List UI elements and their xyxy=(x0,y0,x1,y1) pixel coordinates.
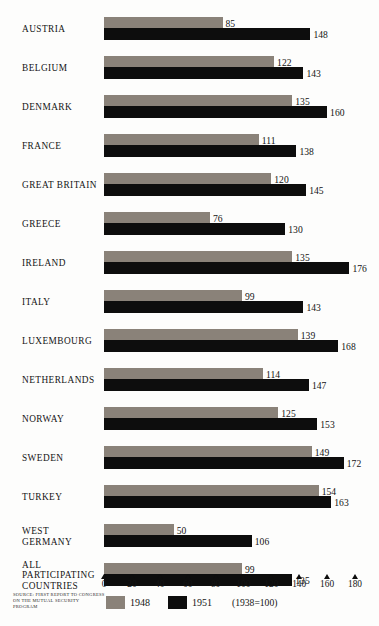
x-axis-tick-label: 140 xyxy=(284,579,314,590)
bar-line: 163 xyxy=(104,496,379,508)
row-label-line: SWEDEN xyxy=(22,453,102,464)
chart-rows: AUSTRIA85148BELGIUM122143DENMARK135160FR… xyxy=(0,10,379,595)
bar-group: 149172 xyxy=(104,446,379,471)
bar-1951 xyxy=(104,106,327,118)
bar-value-label: 149 xyxy=(312,446,329,457)
chart-row: GREECE76130 xyxy=(0,205,379,244)
chart-row: FRANCE111138 xyxy=(0,127,379,166)
row-label-line: GREAT BRITAIN xyxy=(22,180,102,191)
bar-value-label: 163 xyxy=(331,497,348,508)
row-label-line: WEST xyxy=(22,526,102,537)
bar-line: 99 xyxy=(104,290,379,301)
bar-value-label: 147 xyxy=(309,380,326,391)
bar-1951 xyxy=(104,418,317,430)
x-axis-tick: 100 xyxy=(228,574,258,590)
x-axis-tick-label: 160 xyxy=(312,579,342,590)
bar-value-label: 122 xyxy=(274,56,291,67)
bar-value-label: 114 xyxy=(263,368,280,379)
x-axis-tick-label: 100 xyxy=(228,579,258,590)
bar-line: 130 xyxy=(104,223,379,235)
x-axis-tick-label: 60 xyxy=(173,579,203,590)
chart-row: TURKEY154163 xyxy=(0,478,379,517)
x-axis-tick-label: 120 xyxy=(256,579,286,590)
legend-label-1948: 1948 xyxy=(130,597,150,608)
bar-group: 50106 xyxy=(104,524,379,549)
row-label-norway: NORWAY xyxy=(22,400,102,439)
bar-group: 99143 xyxy=(104,290,379,315)
bar-value-label: 99 xyxy=(242,563,255,574)
bar-line: 106 xyxy=(104,535,379,547)
x-axis-tick-label: 180 xyxy=(340,579,370,590)
x-axis-tick-label: 20 xyxy=(117,579,147,590)
bar-line: 145 xyxy=(104,184,379,196)
x-axis-tick: 180 xyxy=(340,574,370,590)
bar-group: 120145 xyxy=(104,173,379,198)
row-label-greece: GREECE xyxy=(22,205,102,244)
bar-1948 xyxy=(104,134,259,145)
x-axis-tick: 120 xyxy=(256,574,286,590)
bar-group: 76130 xyxy=(104,212,379,237)
row-label-great-britain: GREAT BRITAIN xyxy=(22,166,102,205)
chart-row: ITALY99143 xyxy=(0,283,379,322)
bar-1948 xyxy=(104,329,298,340)
legend-swatch-1951 xyxy=(168,596,187,609)
x-axis-tick: 80 xyxy=(201,574,231,590)
row-label-austria: AUSTRIA xyxy=(22,10,102,49)
bar-value-label: 153 xyxy=(317,419,334,430)
row-label-line: ITALY xyxy=(22,297,102,308)
row-label-sweden: SWEDEN xyxy=(22,439,102,478)
bar-1948 xyxy=(104,290,242,301)
bar-line: 168 xyxy=(104,340,379,352)
x-axis-tick: 160 xyxy=(312,574,342,590)
bar-line: 154 xyxy=(104,485,379,496)
x-axis-tick-label: 80 xyxy=(201,579,231,590)
bar-value-label: 172 xyxy=(344,458,361,469)
bar-value-label: 176 xyxy=(349,263,366,274)
chart-row: LUXEMBOURG139168 xyxy=(0,322,379,361)
bar-line: 176 xyxy=(104,262,379,274)
bar-line: 147 xyxy=(104,379,379,391)
bar-1948 xyxy=(104,173,271,184)
bar-value-label: 148 xyxy=(310,29,327,40)
x-axis-tick: 20 xyxy=(117,574,147,590)
bar-line: 76 xyxy=(104,212,379,223)
bar-value-label: 143 xyxy=(303,68,320,79)
bar-1948 xyxy=(104,563,242,574)
bar-line: 50 xyxy=(104,524,379,535)
legend-label-1951: 1951 xyxy=(192,597,212,608)
row-label-west-germany: WESTGERMANY xyxy=(22,517,102,556)
bar-group: 85148 xyxy=(104,17,379,42)
bar-line: 172 xyxy=(104,457,379,469)
x-axis-tick: 40 xyxy=(145,574,175,590)
bar-value-label: 138 xyxy=(296,146,313,157)
bar-line: 139 xyxy=(104,329,379,340)
bar-1948 xyxy=(104,17,223,28)
bar-1948 xyxy=(104,368,263,379)
row-label-italy: ITALY xyxy=(22,283,102,322)
row-label-luxembourg: LUXEMBOURG xyxy=(22,322,102,361)
bar-line: 120 xyxy=(104,173,379,184)
bar-line: 135 xyxy=(104,251,379,262)
legend-item-1951: 1951 xyxy=(168,596,212,609)
bar-1951 xyxy=(104,145,296,157)
row-label-line: GERMANY xyxy=(22,537,102,548)
row-label-france: FRANCE xyxy=(22,127,102,166)
bar-value-label: 160 xyxy=(327,107,344,118)
row-label-line: NORWAY xyxy=(22,414,102,425)
chart-row: DENMARK135160 xyxy=(0,88,379,127)
x-axis-tick: 0 xyxy=(89,574,119,590)
bar-group: 114147 xyxy=(104,368,379,393)
bar-group: 122143 xyxy=(104,56,379,81)
row-label-line: IRELAND xyxy=(22,258,102,269)
bar-line: 160 xyxy=(104,106,379,118)
bar-group: 139168 xyxy=(104,329,379,354)
bar-1948 xyxy=(104,251,292,262)
bar-line: 111 xyxy=(104,134,379,145)
bar-line: 143 xyxy=(104,301,379,313)
bar-value-label: 143 xyxy=(303,302,320,313)
bar-1948 xyxy=(104,212,210,223)
chart-row: GREAT BRITAIN120145 xyxy=(0,166,379,205)
bar-group: 135176 xyxy=(104,251,379,276)
chart-row: WESTGERMANY50106 xyxy=(0,517,379,556)
x-axis-tick-label: 40 xyxy=(145,579,175,590)
